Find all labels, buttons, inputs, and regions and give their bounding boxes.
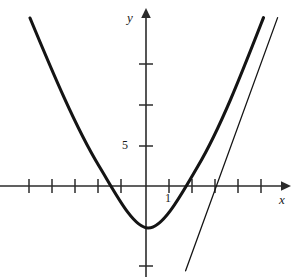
y-axis-arrowhead-icon [141, 8, 151, 18]
x-axis-label: x [279, 193, 285, 206]
y-tick-label-5: 5 [122, 139, 128, 151]
figure-canvas: y x 5 1 [0, 0, 293, 277]
x-tick-label-1: 1 [165, 192, 171, 204]
x-axis-arrowhead-icon [281, 181, 291, 191]
y-axis-label: y [127, 11, 133, 24]
graph-plot-area [0, 0, 293, 277]
tangent-line-curve [186, 18, 278, 271]
